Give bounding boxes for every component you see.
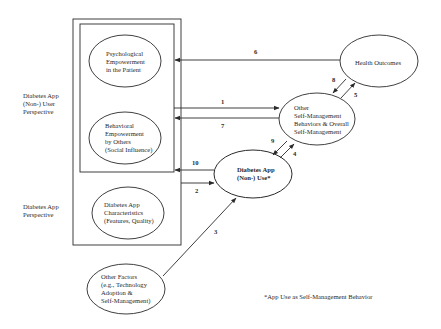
svg-text:Psychological: Psychological	[106, 50, 143, 57]
svg-text:Other: Other	[294, 104, 310, 111]
svg-text:8: 8	[332, 76, 336, 83]
node-health-outcomes: Health Outcomes	[340, 35, 418, 87]
path-6-arrow: 6	[175, 48, 340, 60]
label-user-perspective: Diabetes App (Non-) User Perspective	[23, 92, 59, 115]
svg-text:Self-Management: Self-Management	[294, 128, 341, 135]
svg-text:(Features, Quality): (Features, Quality)	[104, 217, 154, 225]
svg-text:Perspective: Perspective	[23, 211, 53, 218]
path-5-arrow: 5	[341, 83, 358, 98]
path-4-arrow: 4	[280, 144, 297, 158]
svg-text:(Social Influence): (Social Influence)	[105, 146, 152, 154]
svg-text:Health Outcomes: Health Outcomes	[355, 59, 401, 66]
node-behavioral-empowerment: Behavioral Empowerment by Others (Social…	[89, 112, 161, 164]
svg-text:Diabetes App: Diabetes App	[104, 201, 140, 208]
label-app-perspective: Diabetes App Perspective	[23, 203, 59, 218]
svg-text:1: 1	[221, 98, 224, 105]
node-other-factors: Other Factors (e.g., Technology Adoption…	[87, 264, 165, 314]
svg-text:Other Factors: Other Factors	[101, 273, 138, 280]
svg-text:Behaviors & Overall: Behaviors & Overall	[294, 120, 349, 127]
path-9-arrow: 9	[271, 137, 287, 155]
path-3-arrow: 3	[163, 198, 236, 276]
svg-text:10: 10	[192, 159, 199, 166]
svg-text:4: 4	[293, 150, 297, 157]
svg-text:6: 6	[254, 48, 258, 55]
svg-text:9: 9	[271, 137, 275, 144]
svg-text:(e.g., Technology: (e.g., Technology	[101, 281, 148, 289]
svg-text:3: 3	[214, 228, 218, 235]
node-app-characteristics: Diabetes App Characteristics (Features, …	[92, 187, 164, 239]
svg-text:Diabetes App: Diabetes App	[23, 92, 59, 99]
diagram-canvas: Diabetes App (Non-) User Perspective Dia…	[0, 0, 441, 329]
footnote: *App Use as Self-Management Behavior	[264, 293, 373, 300]
svg-text:Characteristics: Characteristics	[104, 209, 144, 216]
svg-text:2: 2	[195, 187, 199, 194]
svg-text:Empowerment: Empowerment	[105, 130, 144, 137]
svg-text:Perspective: Perspective	[23, 108, 53, 115]
svg-text:Adoption &: Adoption &	[101, 289, 134, 296]
svg-text:7: 7	[221, 122, 225, 129]
svg-text:Self-Management): Self-Management)	[101, 297, 150, 305]
node-psychological-empowerment: Psychological Empowerment in the Patient	[89, 35, 161, 87]
svg-text:Behavioral: Behavioral	[105, 122, 134, 129]
svg-text:Self-Management: Self-Management	[294, 112, 341, 119]
path-2-arrow: 2	[181, 183, 214, 194]
svg-text:in the Patient: in the Patient	[106, 66, 141, 73]
svg-text:by Others: by Others	[105, 138, 131, 145]
svg-text:Diabetes App: Diabetes App	[23, 203, 59, 210]
svg-text:Empowerment: Empowerment	[106, 58, 145, 65]
svg-text:(Non-) Use*: (Non-) Use*	[237, 174, 271, 182]
svg-text:Diabetes App: Diabetes App	[237, 166, 275, 173]
node-other-self-management: Other Self-Management Behaviors & Overal…	[279, 93, 355, 145]
svg-text:5: 5	[354, 91, 358, 98]
path-1-arrow: 1	[174, 98, 279, 108]
svg-text:(Non-) User: (Non-) User	[23, 100, 56, 108]
path-8-arrow: 8	[332, 76, 346, 93]
path-7-arrow: 7	[175, 118, 279, 129]
